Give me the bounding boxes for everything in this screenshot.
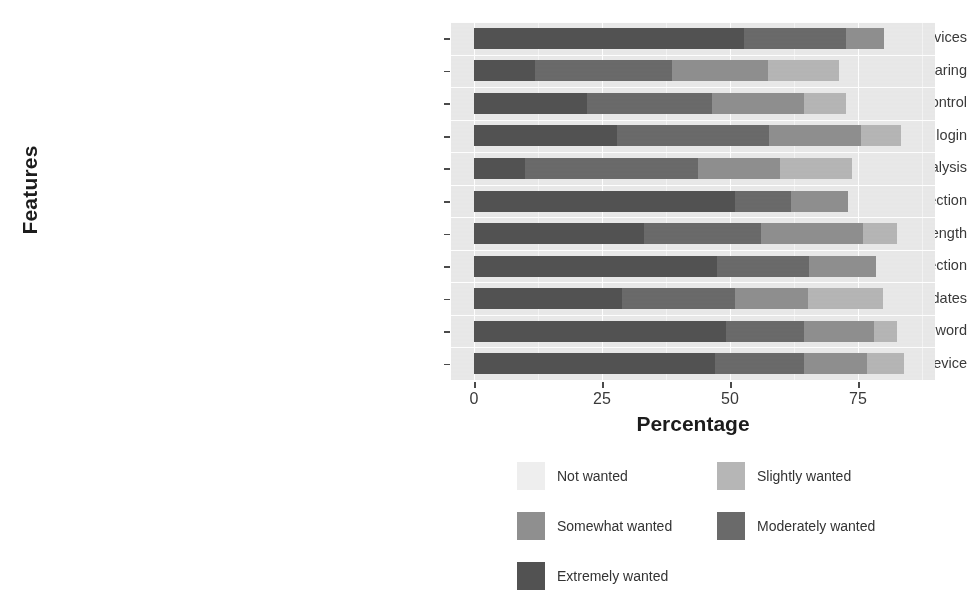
bar-row xyxy=(474,256,876,277)
bar-segment xyxy=(846,28,884,49)
bar-segment xyxy=(474,353,715,374)
gridline-horizontal xyxy=(451,87,935,88)
y-axis-tick-mark xyxy=(444,331,450,333)
x-axis-title: Percentage xyxy=(451,412,935,436)
bar-segment xyxy=(622,288,735,309)
x-axis-tick-label: 25 xyxy=(582,390,622,408)
y-axis-tick-mark xyxy=(444,136,450,138)
bar-row xyxy=(474,28,884,49)
bar-segment xyxy=(863,223,898,244)
y-axis-tick-mark xyxy=(444,201,450,203)
legend-swatch-not-wanted xyxy=(517,462,545,490)
legend-item-moderately-wanted[interactable]: Moderately wanted xyxy=(717,512,917,540)
bar-segment xyxy=(474,158,525,179)
y-axis-tick-mark xyxy=(444,168,450,170)
bar-segment xyxy=(768,60,838,81)
y-axis-title: Features xyxy=(18,120,42,260)
gridline-minor xyxy=(922,22,923,380)
legend-label-slightly-wanted: Slightly wanted xyxy=(757,468,851,484)
bar-segment xyxy=(717,256,809,277)
y-axis-tick-mark xyxy=(444,71,450,73)
bar-row xyxy=(474,191,848,212)
bar-segment xyxy=(474,125,617,146)
bar-segment xyxy=(726,321,804,342)
gridline-horizontal xyxy=(451,282,935,283)
x-axis-tick-label: 0 xyxy=(454,390,494,408)
bar-row xyxy=(474,125,901,146)
y-axis-tick-mark xyxy=(444,103,450,105)
bar-segment xyxy=(735,191,791,212)
bar-segment xyxy=(474,93,587,114)
y-axis-tick-mark xyxy=(444,299,450,301)
bar-segment xyxy=(474,60,535,81)
legend-swatch-slightly-wanted xyxy=(717,462,745,490)
legend-swatch-extremely-wanted xyxy=(517,562,545,590)
gridline-horizontal xyxy=(451,347,935,348)
y-axis-tick-mark xyxy=(444,234,450,236)
gridline-horizontal xyxy=(451,185,935,186)
bar-segment xyxy=(761,223,862,244)
x-axis-tick-label: 50 xyxy=(710,390,750,408)
legend-swatch-somewhat-wanted xyxy=(517,512,545,540)
bar-segment xyxy=(735,288,808,309)
y-axis-tick-mark xyxy=(444,266,450,268)
bar-segment xyxy=(474,191,735,212)
bar-segment xyxy=(809,256,876,277)
x-axis-tick-mark xyxy=(730,382,732,388)
gridline-horizontal xyxy=(451,22,935,23)
bar-segment xyxy=(474,321,726,342)
gridline-horizontal xyxy=(451,380,935,381)
legend-swatch-moderately-wanted xyxy=(717,512,745,540)
bar-segment xyxy=(744,28,846,49)
legend-item-not-wanted[interactable]: Not wanted xyxy=(517,462,717,490)
x-axis-tick-mark xyxy=(474,382,476,388)
legend-label-somewhat-wanted: Somewhat wanted xyxy=(557,518,672,534)
x-axis-tick-mark xyxy=(858,382,860,388)
bar-segment xyxy=(804,353,867,374)
gridline-horizontal xyxy=(451,250,935,251)
legend-item-slightly-wanted[interactable]: Slightly wanted xyxy=(717,462,917,490)
y-axis-tick-mark xyxy=(444,364,450,366)
bar-segment xyxy=(474,256,717,277)
gridline-horizontal xyxy=(451,217,935,218)
bar-segment xyxy=(617,125,769,146)
legend-row: Somewhat wanted Moderately wanted xyxy=(517,512,917,540)
bar-segment xyxy=(712,93,804,114)
gridline-horizontal xyxy=(451,55,935,56)
x-axis-tick-label: 75 xyxy=(838,390,878,408)
legend-row: Not wanted Slightly wanted xyxy=(517,462,917,490)
bar-segment xyxy=(769,125,861,146)
bar-segment xyxy=(861,125,901,146)
bar-segment xyxy=(867,353,904,374)
bar-segment xyxy=(587,93,712,114)
bar-segment xyxy=(808,288,883,309)
legend-label-not-wanted: Not wanted xyxy=(557,468,628,484)
bar-segment xyxy=(525,158,698,179)
legend-label-extremely-wanted: Extremely wanted xyxy=(557,568,668,584)
bar-segment xyxy=(780,158,852,179)
bar-segment xyxy=(874,321,897,342)
legend-row: Extremely wanted xyxy=(517,562,917,590)
bar-segment xyxy=(474,28,744,49)
y-axis-tick-mark xyxy=(444,38,450,40)
bar-row xyxy=(474,321,897,342)
gridline-horizontal xyxy=(451,152,935,153)
bar-segment xyxy=(698,158,780,179)
gridline-horizontal xyxy=(451,120,935,121)
bar-row xyxy=(474,288,883,309)
bar-segment xyxy=(804,321,874,342)
bar-row xyxy=(474,353,904,374)
bar-segment xyxy=(474,288,622,309)
x-axis-tick-mark xyxy=(602,382,604,388)
bar-segment xyxy=(672,60,768,81)
legend-label-moderately-wanted: Moderately wanted xyxy=(757,518,875,534)
legend-item-extremely-wanted[interactable]: Extremely wanted xyxy=(517,562,717,590)
legend-item-somewhat-wanted[interactable]: Somewhat wanted xyxy=(517,512,717,540)
bar-segment xyxy=(644,223,761,244)
bar-segment xyxy=(715,353,804,374)
bar-segment xyxy=(474,223,644,244)
legend: Not wanted Slightly wanted Somewhat want… xyxy=(517,462,917,608)
chart-root: Features Secure connection with all devi… xyxy=(0,0,967,608)
gridline-horizontal xyxy=(451,315,935,316)
bar-segment xyxy=(804,93,846,114)
